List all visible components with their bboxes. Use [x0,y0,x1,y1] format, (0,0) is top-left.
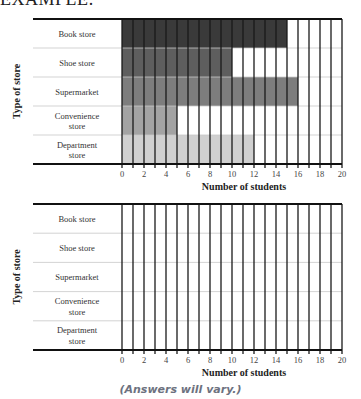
chart2-x-tick-label: 16 [294,355,303,365]
chart2-x-tick-label: 8 [208,355,212,365]
chart2-x-axis-label: Number of students [202,367,286,378]
chart1-y-axis-label: Type of store [11,63,22,119]
chart1-x-tick-label: 0 [120,169,124,179]
chart1-x-tick-label: 12 [250,169,259,179]
chart2-x-tick-label: 0 [120,355,124,365]
chart1-x-tick-label: 4 [164,169,169,179]
chart1-category-label: Supermarket [55,87,99,97]
chart2-x-tick-label: 2 [142,355,146,365]
chart1-category-label: Conveniencestore [55,111,100,132]
chart2-x-tick-label: 18 [316,355,325,365]
chart1-x-tick-label: 20 [338,169,347,179]
bar-charts: Book storeShoe storeSupermarketConvenien… [0,0,361,399]
chart1-x-tick-label: 14 [272,169,281,179]
chart1-x-tick-label: 6 [186,169,190,179]
chart2-category-label: Supermarket [55,272,99,282]
chart2-category-label: Shoe store [59,243,95,253]
chart2-x-tick-label: 6 [186,355,190,365]
chart1-x-tick-label: 16 [294,169,303,179]
chart2-category-label: Departmentstore [57,325,98,346]
chart1-x-tick-label: 18 [316,169,325,179]
chart1-x-tick-label: 8 [208,169,212,179]
chart2-x-tick-label: 14 [272,355,281,365]
chart1-bar [122,106,177,135]
chart1-bar [122,19,287,48]
chart2-x-tick-label: 20 [338,355,347,365]
chart1-category-label: Shoe store [59,58,95,68]
chart2-x-tick-label: 10 [228,355,237,365]
chart1-x-tick-label: 2 [142,169,146,179]
chart2-category-label: Conveniencestore [55,296,100,317]
chart1-x-axis-label: Number of students [202,181,286,192]
chart1-x-tick-label: 10 [228,169,237,179]
chart1-category-label: Book store [58,29,95,39]
answers-caption: (Answers will vary.) [0,383,361,396]
chart2-category-label: Book store [58,214,95,224]
chart2-x-tick-label: 12 [250,355,259,365]
chart1-category-label: Departmentstore [57,140,98,161]
chart2-x-tick-label: 4 [164,355,169,365]
chart2-y-axis-label: Type of store [11,249,22,305]
